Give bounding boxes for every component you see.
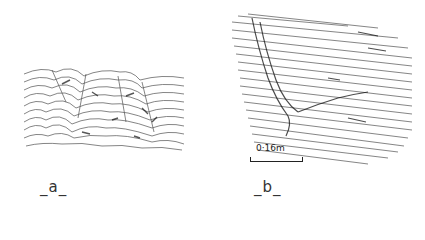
scale-bar (250, 157, 303, 162)
hatching-texture-a (22, 62, 186, 154)
panel-a-label: _a_ (40, 178, 67, 196)
panel-a-drawing (22, 62, 186, 154)
panel-b-label: _b_ (254, 178, 282, 196)
scale-bar-label: 0·16m (256, 143, 285, 153)
